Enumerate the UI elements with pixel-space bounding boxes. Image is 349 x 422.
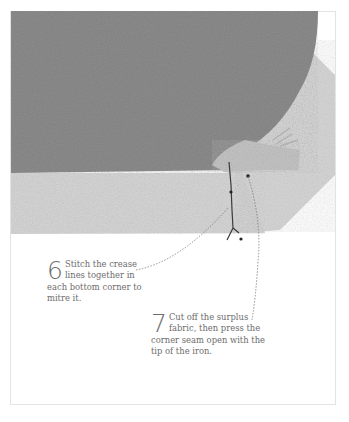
step-7-text: Cut off the surplus fabric, then press t…	[151, 312, 265, 356]
fabric-corner-illustration	[0, 0, 349, 422]
step-7-number: 7	[151, 314, 167, 334]
step-6-caption: 6 Stitch the crease lines together in ea…	[47, 259, 152, 305]
hem-band	[11, 168, 265, 234]
step-7-caption: 7 Cut off the surplus fabric, then press…	[151, 312, 269, 358]
step-6-number: 6	[47, 261, 63, 281]
